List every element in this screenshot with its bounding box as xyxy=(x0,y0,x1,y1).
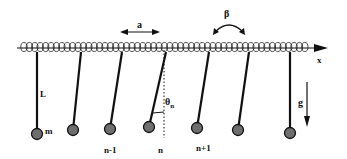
length-label: L xyxy=(40,89,46,99)
pendulum-bob xyxy=(192,123,203,134)
pendulum-rod xyxy=(238,52,249,130)
left-arrow-icon xyxy=(120,29,128,35)
pendulum-bob xyxy=(32,129,43,140)
gravity-label: g xyxy=(298,97,303,108)
torsion-indicator: β xyxy=(213,8,245,35)
pendulum-rod xyxy=(149,52,166,127)
pendulum xyxy=(285,52,296,139)
x-axis-arrow-icon xyxy=(314,44,328,52)
gravity-indicator: g xyxy=(298,82,310,127)
mass-label: m xyxy=(45,126,53,136)
right-arrow-icon xyxy=(152,29,160,35)
spacing-label: a xyxy=(137,19,142,30)
pendulum-bob xyxy=(105,124,116,135)
pendulum-rod xyxy=(73,52,81,130)
pendulum xyxy=(192,52,210,134)
pendulum-bob xyxy=(144,122,155,133)
angle-label: θn xyxy=(165,96,174,110)
pendulum xyxy=(144,52,167,133)
pendulum xyxy=(233,52,250,136)
index-prev-label: n-1 xyxy=(104,145,117,155)
pendulum-bob xyxy=(68,125,79,136)
down-arrow-icon xyxy=(304,116,310,127)
pendulum xyxy=(68,52,82,136)
x-axis-label: x xyxy=(317,55,322,65)
angle-marker xyxy=(153,112,164,113)
index-next-label: n+1 xyxy=(196,143,211,153)
pendulum-bob xyxy=(233,125,244,136)
torsion-label: β xyxy=(224,8,229,19)
pendulum-rod xyxy=(197,52,209,128)
pendulum-rod xyxy=(110,52,122,129)
pendulum-chain-diagram: x a β θn L m n-1 n n+1 g xyxy=(0,0,347,159)
pendulum xyxy=(105,52,123,135)
pendulum-bob xyxy=(285,128,296,139)
spacing-indicator: a xyxy=(120,19,160,35)
index-curr-label: n xyxy=(158,145,163,155)
